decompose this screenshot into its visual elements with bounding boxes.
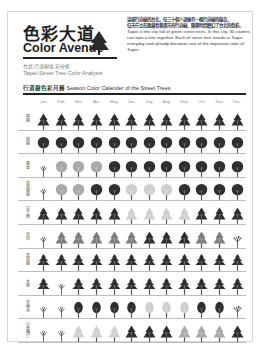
tree-icon (142, 277, 157, 295)
tree-icon (142, 253, 157, 271)
intro-paragraph: 滿城行道樹的台北，每三十個人就擁有一棵行道樹的綠意， 每天佇立在路邊看著都市的行… (127, 17, 251, 53)
month-tree-cell (211, 228, 229, 248)
tree-icon (212, 277, 227, 295)
tree-row: 樟樹 (18, 107, 246, 131)
month-tree-cell (228, 157, 246, 177)
month-tree-cell (176, 322, 194, 342)
month-tree-cell (53, 275, 71, 295)
month-label: Sep. (176, 99, 194, 104)
tree-row: 楓香 (18, 154, 246, 178)
month-tree-cell (228, 322, 246, 342)
month-tree-cell (228, 251, 246, 271)
tree-icon (159, 159, 174, 177)
month-tree-cell (70, 133, 88, 153)
month-label: May. (105, 99, 123, 104)
poster-card: 色彩大道 Color Avenue 台北行道樹色彩分析 Taipei Stree… (7, 11, 253, 342)
tree-icon (230, 159, 245, 177)
tree-icon (36, 159, 51, 177)
month-tree-cell (228, 180, 246, 200)
tree-icon (212, 159, 227, 177)
tree-icon (194, 206, 209, 224)
month-tree-cell (35, 110, 53, 130)
month-label: Oct. (193, 99, 211, 104)
tree-icon (142, 206, 157, 224)
tree-icon (194, 324, 209, 342)
tree-icon (54, 324, 69, 342)
tree-icon (212, 300, 227, 318)
month-label: Jan. (35, 99, 53, 104)
month-tree-cell (105, 157, 123, 177)
month-tree-cell (228, 275, 246, 295)
calendar-heading-zh: 行道樹色彩月曆 (23, 85, 65, 91)
tree-icon (54, 206, 69, 224)
tree-icon (36, 135, 51, 153)
tree-icon (212, 182, 227, 200)
month-tree-cell (193, 180, 211, 200)
tree-icon (71, 230, 86, 248)
month-tree-cell (70, 157, 88, 177)
month-tree-cell (158, 228, 176, 248)
tree-species-label: 苦楝木 (18, 296, 35, 318)
tree-icon (230, 135, 245, 153)
tree-icon (212, 135, 227, 153)
month-tree-cell (53, 298, 71, 318)
tree-icon (142, 230, 157, 248)
month-tree-cell (158, 275, 176, 295)
month-label: July. (140, 99, 158, 104)
month-tree-cell (211, 133, 229, 153)
tree-icon (124, 324, 139, 342)
tree-species-label: 木棉 (18, 273, 35, 295)
tree-icon (71, 135, 86, 153)
month-tree-cell (140, 133, 158, 153)
month-tree-cell (88, 251, 106, 271)
tree-icon (124, 277, 139, 295)
tree-icon (212, 324, 227, 342)
tree-icon (177, 182, 192, 200)
month-tree-cell (211, 110, 229, 130)
month-tree-cell (228, 298, 246, 318)
tree-icon (230, 230, 245, 248)
month-tree-cell (193, 251, 211, 271)
tree-icon (159, 182, 174, 200)
month-tree-cell (176, 275, 194, 295)
tree-icon (107, 135, 122, 153)
tree-icon (107, 230, 122, 248)
month-tree-cell (140, 322, 158, 342)
month-tree-cell (105, 298, 123, 318)
month-tree-cell (70, 298, 88, 318)
tree-icon (124, 300, 139, 318)
month-tree-cell (211, 204, 229, 224)
month-tree-cell (211, 157, 229, 177)
tree-icon (230, 324, 245, 342)
month-tree-cell (70, 204, 88, 224)
month-label: Jun. (123, 99, 141, 104)
month-label: Apr. (88, 99, 106, 104)
tree-icon (107, 206, 122, 224)
month-tree-cell (211, 275, 229, 295)
month-tree-cell (158, 322, 176, 342)
month-tree-cell (123, 298, 141, 318)
month-tree-cell (123, 322, 141, 342)
tree-icon (89, 182, 104, 200)
month-tree-cell (70, 228, 88, 248)
tree-icon (230, 300, 245, 318)
month-tree-cell (193, 322, 211, 342)
tree-icon (89, 230, 104, 248)
tree-icon (159, 206, 174, 224)
month-tree-cell (176, 157, 194, 177)
tree-icon (159, 230, 174, 248)
tree-icon (54, 112, 69, 130)
month-tree-cell (105, 251, 123, 271)
tree-icon (194, 182, 209, 200)
tree-icon (71, 300, 86, 318)
tree-icon (142, 300, 157, 318)
month-tree-cell (88, 180, 106, 200)
tree-row: 小葉欖仁 (18, 319, 246, 343)
tree-icon (177, 206, 192, 224)
tree-icon (36, 300, 51, 318)
subtitle-english: Taipei Street Tree Color Analysis (23, 70, 102, 76)
tree-icon (88, 30, 110, 56)
tree-icon (177, 253, 192, 271)
tree-icon (71, 253, 86, 271)
tree-icon (124, 159, 139, 177)
